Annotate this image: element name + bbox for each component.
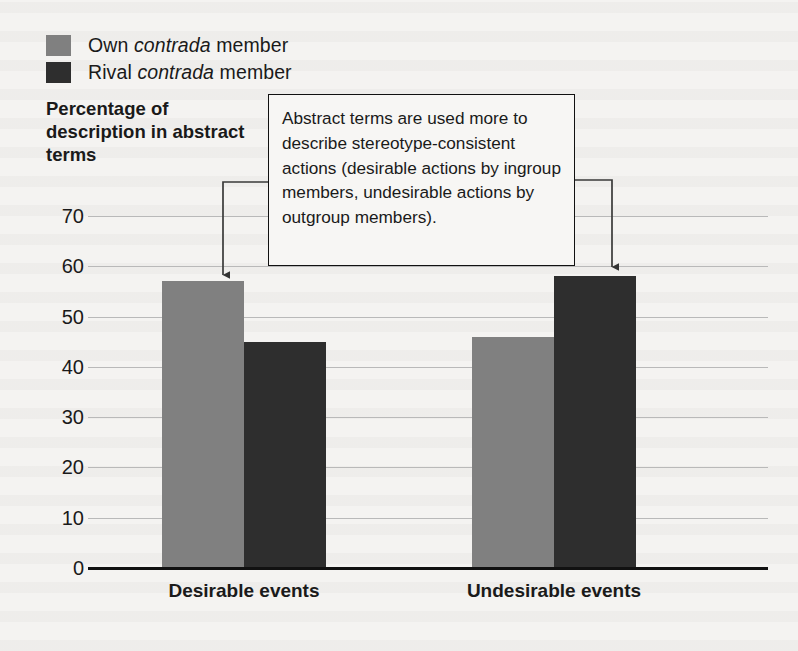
- chart-legend: Own contrada member Rival contrada membe…: [46, 32, 466, 86]
- gridline: [96, 266, 768, 267]
- y-tick-label: 20: [62, 456, 84, 479]
- legend-item-own-contrada-member: Own contrada member: [46, 32, 466, 59]
- y-tick-mark: [88, 518, 96, 519]
- legend-swatch-rival-contrada-member: [46, 62, 71, 83]
- y-tick-label: 70: [62, 205, 84, 228]
- bar-undesirable-events-own-contrada-member: [472, 337, 554, 568]
- bar-desirable-events-rival-contrada-member: [244, 342, 326, 568]
- annotation-callout: Abstract terms are used more to describe…: [268, 94, 575, 266]
- legend-swatch-own-contrada-member: [46, 35, 71, 56]
- chart-figure: Own contrada member Rival contrada membe…: [0, 0, 798, 651]
- x-axis-line: [88, 567, 768, 570]
- y-tick-mark: [88, 417, 96, 418]
- plot-area: 010203040506070: [96, 216, 768, 568]
- y-tick-label: 0: [73, 557, 84, 580]
- x-axis-label-undesirable-events: Undesirable events: [434, 580, 674, 602]
- y-tick-label: 50: [62, 305, 84, 328]
- legend-item-rival-contrada-member: Rival contrada member: [46, 59, 466, 86]
- y-tick-mark: [88, 467, 96, 468]
- y-axis-title: Percentage of description in abstract te…: [46, 97, 261, 166]
- y-tick-label: 40: [62, 355, 84, 378]
- x-axis-label-desirable-events: Desirable events: [124, 580, 364, 602]
- y-tick-label: 30: [62, 406, 84, 429]
- bar-desirable-events-own-contrada-member: [162, 281, 244, 568]
- y-tick-mark: [88, 317, 96, 318]
- legend-label-own-contrada-member: Own contrada member: [88, 34, 288, 57]
- bar-undesirable-events-rival-contrada-member: [554, 276, 636, 568]
- y-tick-mark: [88, 216, 96, 217]
- legend-label-rival-contrada-member: Rival contrada member: [88, 61, 292, 84]
- y-tick-label: 10: [62, 506, 84, 529]
- y-tick-mark: [88, 367, 96, 368]
- y-tick-label: 60: [62, 255, 84, 278]
- y-tick-mark: [88, 266, 96, 267]
